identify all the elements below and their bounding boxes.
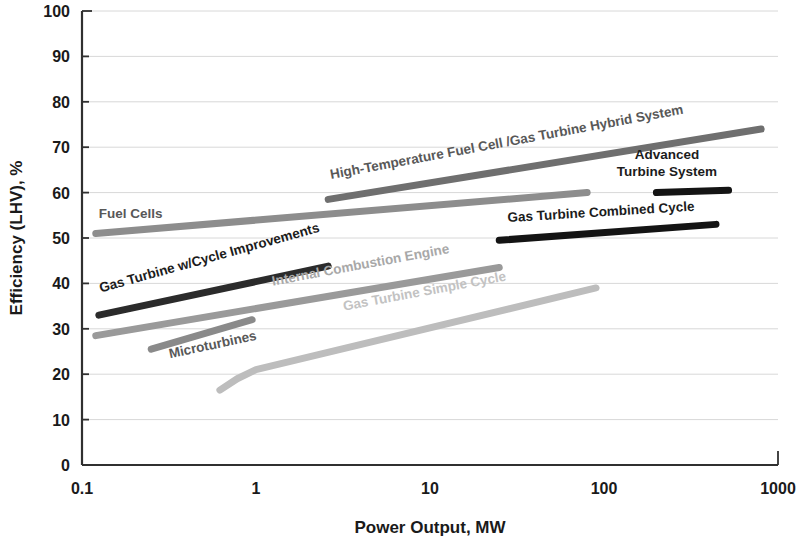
series-label: Gas Turbine Combined Cycle [507, 199, 695, 225]
series-label: Advanced [635, 147, 700, 162]
x-axis-title: Power Output, MW [354, 518, 506, 537]
y-tick-label: 40 [52, 275, 70, 292]
series-label: Turbine System [617, 164, 717, 179]
y-tick-label: 0 [61, 457, 70, 474]
series-line [656, 190, 728, 192]
y-tick-label: 80 [52, 94, 70, 111]
y-tick-label: 90 [52, 48, 70, 65]
series-label: Fuel Cells [99, 206, 163, 221]
series-label-group: Fuel Cells [99, 206, 163, 221]
y-tick-label: 10 [52, 412, 70, 429]
x-tick-label: 0.1 [71, 480, 93, 497]
x-axis-tick-labels: 0.11101001000 [71, 480, 796, 497]
chart-canvas: 0102030405060708090100 0.11101001000 Fue… [0, 0, 802, 547]
x-tick-label: 1 [252, 480, 261, 497]
y-axis-title: Efficiency (LHV), % [7, 161, 26, 316]
y-tick-label: 50 [52, 230, 70, 247]
x-tick-label: 10 [421, 480, 439, 497]
efficiency-vs-power-chart: 0102030405060708090100 0.11101001000 Fue… [0, 0, 802, 547]
y-tick-label: 60 [52, 185, 70, 202]
series-label-group: Gas Turbine Combined Cycle [507, 199, 695, 225]
y-tick-label: 20 [52, 366, 70, 383]
grid-lines [82, 11, 778, 420]
y-tick-label: 100 [43, 3, 70, 20]
y-tick-label: 30 [52, 321, 70, 338]
x-tick-label: 100 [591, 480, 618, 497]
x-tick-label: 1000 [760, 480, 796, 497]
y-tick-label: 70 [52, 139, 70, 156]
